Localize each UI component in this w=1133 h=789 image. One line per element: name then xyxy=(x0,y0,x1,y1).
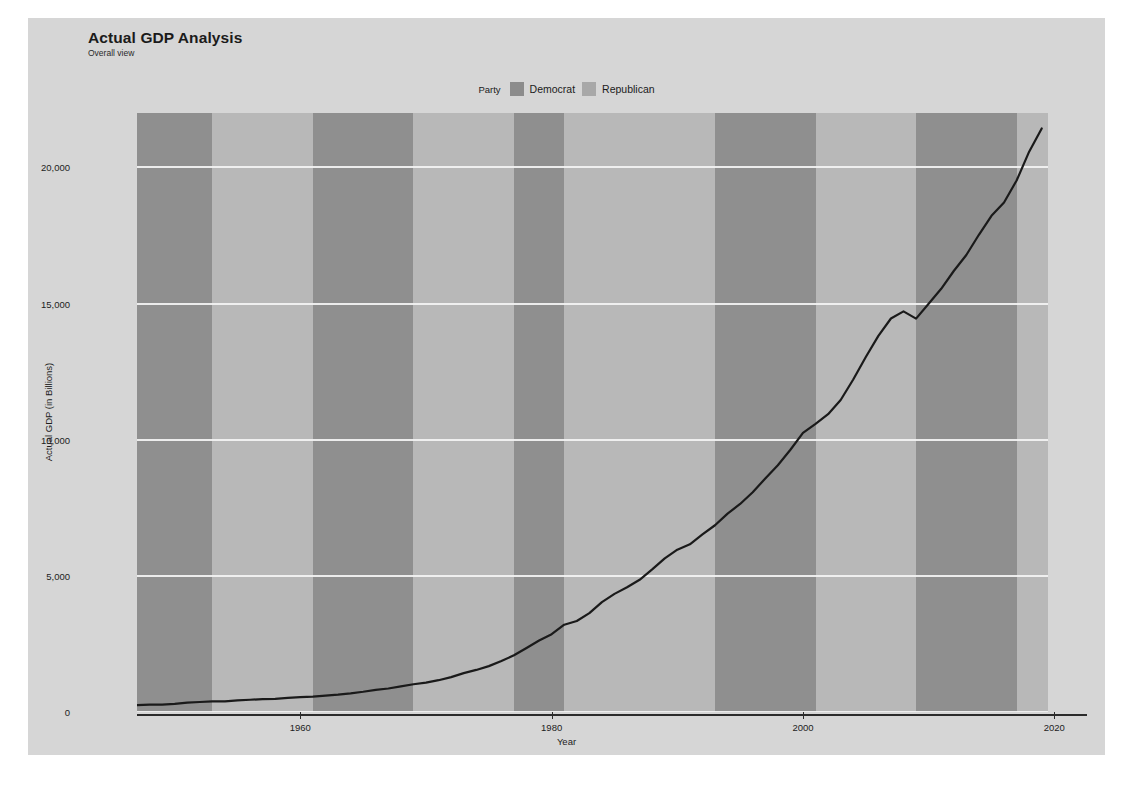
y-axis-title: Actual GDP (in Billions) xyxy=(43,363,54,462)
x-axis-tick-label: 1960 xyxy=(290,722,311,733)
y-axis-tick-label: 5,000 xyxy=(46,570,70,581)
legend-item-democrat[interactable]: Democrat xyxy=(510,82,576,96)
legend-title: Party xyxy=(478,84,500,95)
legend-item-republican[interactable]: Republican xyxy=(582,82,655,96)
x-axis-tick-mark xyxy=(803,712,804,719)
y-axis-tick-label: 15,000 xyxy=(41,298,70,309)
x-axis-tick-label: 1980 xyxy=(541,722,562,733)
page-title: Actual GDP Analysis xyxy=(88,30,242,46)
x-axis-tick-mark xyxy=(300,712,301,719)
x-axis-tick-label: 2020 xyxy=(1044,722,1065,733)
gdp-line-path xyxy=(137,128,1042,705)
plot-area xyxy=(137,113,1048,712)
legend: Party Democrat Republican xyxy=(0,82,1133,96)
y-axis-tick-label: 20,000 xyxy=(41,162,70,173)
page-subtitle: Overall view xyxy=(88,49,242,58)
x-axis-tick-mark xyxy=(1054,712,1055,719)
legend-label-republican: Republican xyxy=(602,83,655,95)
x-axis-tick-label: 2000 xyxy=(792,722,813,733)
x-axis-line xyxy=(137,714,1087,716)
legend-swatch-democrat xyxy=(510,82,524,96)
x-axis-title: Year xyxy=(0,736,1133,747)
legend-swatch-republican xyxy=(582,82,596,96)
gdp-line-series xyxy=(137,113,1048,712)
y-axis-tick-label: 0 xyxy=(65,707,70,718)
legend-label-democrat: Democrat xyxy=(530,83,576,95)
x-axis-tick-mark xyxy=(552,712,553,719)
chart-screenshot: Actual GDP Analysis Overall view Party D… xyxy=(0,0,1133,789)
title-block: Actual GDP Analysis Overall view xyxy=(88,30,242,58)
